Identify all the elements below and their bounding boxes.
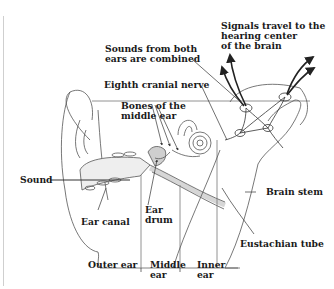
label-ear-canal: Ear canal: [81, 217, 130, 227]
ear-canal: [80, 152, 150, 190]
label-sound: Sound: [20, 175, 53, 185]
brain-stem-outline: [225, 164, 258, 268]
label-sounds-combined: Sounds from both ears are combined: [105, 44, 200, 64]
brain-outline: [258, 100, 301, 164]
label-brain-stem: Brain stem: [266, 187, 323, 197]
label-eustachian-tube: Eustachian tube: [240, 239, 324, 249]
label-inner-ear: Inner ear: [197, 260, 225, 280]
label-ear-drum: Ear drum: [145, 205, 173, 225]
label-eighth-cranial-nerve: Eighth cranial nerve: [104, 80, 209, 90]
label-signals-to-brain: Signals travel to the hearing center of …: [221, 21, 325, 51]
signal-arrows: [222, 55, 314, 106]
cochlea-inner-ear: [172, 120, 211, 156]
label-middle-ear: Middle ear: [150, 260, 186, 280]
label-outer-ear: Outer ear: [88, 260, 137, 270]
eustachian-tube-shape: [150, 168, 225, 205]
label-bones-middle-ear: Bones of the middle ear: [121, 101, 186, 121]
leader-lines: [50, 60, 256, 272]
middle-ear-bones: [148, 146, 170, 166]
